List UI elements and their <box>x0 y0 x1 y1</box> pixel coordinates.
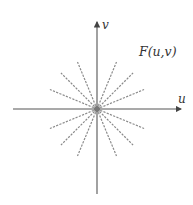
function-label: F(u,v) <box>138 44 177 59</box>
ray-315 <box>97 109 133 145</box>
radial-field-diagram: u v F(u,v) <box>0 0 193 205</box>
v-axis-label: v <box>102 18 109 32</box>
ray-135 <box>61 73 97 109</box>
ray-45 <box>97 73 133 109</box>
u-axis-label: u <box>178 92 186 106</box>
ray-225 <box>61 109 97 145</box>
origin-point <box>94 106 100 112</box>
